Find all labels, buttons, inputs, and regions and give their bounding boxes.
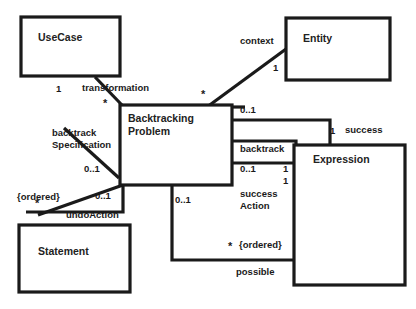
class-name-expression: Expression (313, 153, 370, 165)
multiplicity-undo-action-source: 0..1 (95, 190, 112, 201)
diagram-canvas: UseCase Entity Backtracking Problem Expr… (0, 0, 416, 309)
role-label-backtrack-specification-line2: Specification (52, 139, 111, 150)
class-name-statement: Statement (38, 245, 89, 257)
class-box-usecase[interactable] (21, 17, 120, 76)
role-label-transformation: transformation (82, 82, 149, 93)
role-label-success-action-line2: Action (240, 200, 270, 211)
constraint-ordered-possible: {ordered} (239, 239, 282, 250)
class-name-entity: Entity (303, 32, 332, 44)
class-box-expression[interactable] (294, 145, 405, 285)
class-name-backtracking-problem-line1: Backtracking (128, 112, 194, 124)
role-label-success: success (345, 124, 383, 135)
class-box-entity[interactable] (286, 18, 390, 80)
multiplicity-success-source: 0..1 (240, 104, 257, 115)
role-label-backtrack-specification-line1: backtrack (52, 127, 97, 138)
multiplicity-success-target: 1 (330, 125, 336, 136)
multiplicity-possible-source: 0..1 (175, 194, 192, 205)
multiplicity-undo-action-target: * (35, 197, 40, 209)
multiplicity-possible-target: * (228, 240, 233, 252)
role-label-undo-action: undoAction (66, 209, 119, 220)
class-name-backtracking-problem-line2: Problem (128, 125, 170, 137)
role-label-success-action-line1: success (240, 188, 278, 199)
uml-class-diagram: UseCase Entity Backtracking Problem Expr… (0, 0, 416, 309)
multiplicity-backtrack-target: 1 (283, 163, 289, 174)
multiplicity-success-action-target: 1 (283, 175, 289, 186)
multiplicity-transformation-target: * (103, 97, 108, 109)
association-line-context (207, 49, 286, 107)
role-label-possible: possible (236, 266, 275, 277)
role-label-context: context (240, 35, 275, 46)
multiplicity-backtrack-source: 0..1 (240, 163, 257, 174)
class-box-statement[interactable] (19, 225, 130, 292)
multiplicity-context-target: 1 (273, 62, 279, 73)
multiplicity-context-source: * (201, 88, 206, 100)
role-label-backtrack: backtrack (240, 143, 285, 154)
multiplicity-usecase-transformation: 1 (56, 83, 62, 94)
class-name-usecase: UseCase (38, 31, 83, 43)
multiplicity-backtrack-specification: 0..1 (84, 163, 101, 174)
